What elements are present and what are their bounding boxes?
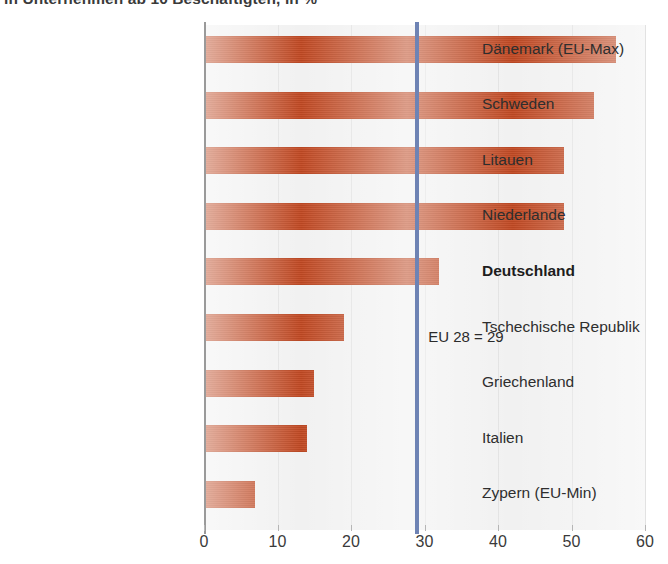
x-tick-mark xyxy=(425,525,426,531)
x-tick-label: 10 xyxy=(269,533,287,551)
category-label: Dänemark (EU-Max) xyxy=(472,40,668,58)
category-label: Niederlande xyxy=(472,206,668,224)
x-tick-mark xyxy=(278,525,279,531)
bar xyxy=(204,314,344,341)
category-label: Italien xyxy=(472,429,668,447)
eu-reference-line xyxy=(415,22,419,534)
x-tick-label: 40 xyxy=(489,533,507,551)
bar xyxy=(204,425,307,452)
x-tick-label: 0 xyxy=(200,533,209,551)
category-label: Litauen xyxy=(472,151,668,169)
x-tick-label: 50 xyxy=(563,533,581,551)
category-label: Deutschland xyxy=(472,262,668,280)
category-label: Schweden xyxy=(472,95,668,113)
category-label: Tschechische Republik xyxy=(472,318,668,336)
bar xyxy=(204,370,314,397)
x-tick-mark xyxy=(351,525,352,531)
x-tick-label: 20 xyxy=(342,533,360,551)
y-axis-line xyxy=(204,22,206,534)
x-tick-mark xyxy=(498,525,499,531)
x-tick-mark xyxy=(645,525,646,531)
category-label: Griechenland xyxy=(472,373,668,391)
x-tick-label: 30 xyxy=(416,533,434,551)
x-tick-mark xyxy=(204,525,205,531)
category-label: Zypern (EU-Min) xyxy=(472,484,668,502)
x-tick-mark xyxy=(572,525,573,531)
x-tick-label: 60 xyxy=(636,533,654,551)
bar xyxy=(204,481,255,508)
horizontal-bar-chart: EU 28 = 29 Dänemark (EU-Max)SchwedenLita… xyxy=(0,0,668,564)
bar xyxy=(204,258,439,285)
